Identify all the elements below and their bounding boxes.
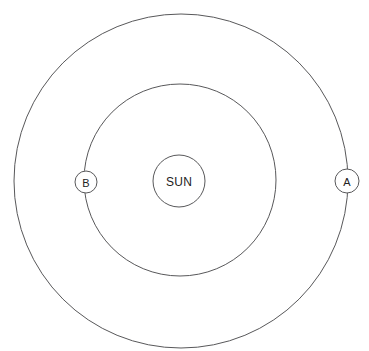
orbit-diagram-canvas: SUN B A <box>0 0 369 351</box>
sun-label: SUN <box>166 175 192 189</box>
planet-a-label: A <box>343 176 351 188</box>
orbit-diagram: SUN B A <box>0 0 369 351</box>
planet-b-label: B <box>82 177 89 189</box>
